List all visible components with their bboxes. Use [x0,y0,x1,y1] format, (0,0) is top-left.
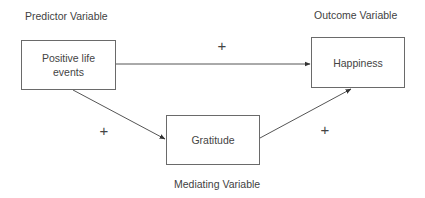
plus-sign-b-path: + [321,122,330,137]
node-positive-life-events-line1: Positive life [42,51,95,65]
arrow-predictor-to-mediator [73,90,165,139]
node-happiness: Happiness [311,37,405,88]
node-positive-life-events-line2: events [42,65,95,79]
node-gratitude: Gratitude [166,115,260,165]
plus-sign-direct: + [218,38,227,53]
arrow-mediator-to-outcome [260,89,351,138]
node-happiness-label: Happiness [333,56,383,70]
node-positive-life-events: Positive life events [21,40,116,90]
plus-sign-a-path: + [100,123,109,138]
node-gratitude-label: Gratitude [191,133,234,147]
diagram-edges [0,0,425,198]
